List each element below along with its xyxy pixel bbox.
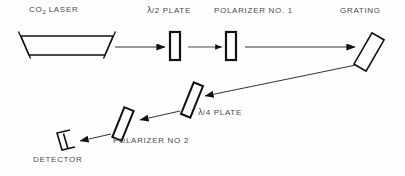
- label-grating: GRATING: [340, 6, 381, 15]
- beam-quarter-wave-plate-to-polarizer-2: [140, 111, 180, 120]
- label-half-wave-plate: λ/2 PLATE: [147, 6, 191, 15]
- label-polarizer-2: POLARIZER NO 2: [113, 136, 189, 145]
- half-wave-plate: [170, 32, 180, 60]
- detector: [57, 130, 75, 150]
- polarizer-1: [226, 32, 236, 60]
- beam-grating-to-quarter-wave-plate: [205, 65, 356, 96]
- optical-setup-diagram: [0, 0, 405, 176]
- co2-laser-body: [19, 32, 116, 59]
- label-detector: DETECTOR: [33, 155, 82, 164]
- beam-polarizer-2-to-detector: [80, 134, 111, 141]
- label-co2-laser: CO2 LASER: [29, 5, 78, 15]
- grating: [354, 33, 384, 71]
- label-polarizer-1: POLARIZER NO. 1: [214, 6, 293, 15]
- label-quarter-wave-plate: λ/4 PLATE: [198, 108, 242, 117]
